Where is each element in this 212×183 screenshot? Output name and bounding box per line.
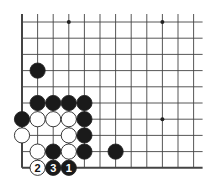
move-number-label: 2 xyxy=(35,162,41,174)
black-stone-icon xyxy=(46,95,61,110)
black-stone-icon xyxy=(61,95,76,110)
black-stone-icon xyxy=(30,95,45,110)
move-number-label: 3 xyxy=(50,162,56,174)
black-stone xyxy=(108,144,123,159)
white-stone-icon xyxy=(61,144,76,159)
black-stone xyxy=(77,128,92,143)
numbered-black-stone: 1 xyxy=(61,160,76,175)
black-stone-icon xyxy=(30,63,45,78)
black-stone xyxy=(77,112,92,127)
move-number-label: 1 xyxy=(66,162,72,174)
white-stone-icon xyxy=(46,112,61,127)
white-stone-icon xyxy=(61,128,76,143)
white-stone-icon xyxy=(14,128,29,143)
black-stone xyxy=(46,95,61,110)
numbered-black-stone: 3 xyxy=(46,160,61,175)
black-stone-icon xyxy=(46,144,61,159)
white-stone xyxy=(61,144,76,159)
white-stone xyxy=(30,112,45,127)
star-point-icon xyxy=(67,20,71,24)
black-stone-icon xyxy=(77,95,92,110)
black-stone xyxy=(77,95,92,110)
white-stone-icon xyxy=(61,112,76,127)
black-stone-icon xyxy=(77,144,92,159)
black-stone xyxy=(46,144,61,159)
white-stone-icon xyxy=(30,112,45,127)
white-stone xyxy=(14,128,29,143)
star-point-icon xyxy=(160,20,164,24)
go-board-diagram: 231 xyxy=(0,0,212,183)
black-stone-icon xyxy=(77,112,92,127)
black-stone-icon xyxy=(108,144,123,159)
white-stone xyxy=(61,128,76,143)
white-stone xyxy=(30,144,45,159)
black-stone xyxy=(61,95,76,110)
star-point-icon xyxy=(160,117,164,121)
black-stone xyxy=(30,95,45,110)
black-stone xyxy=(77,144,92,159)
white-stone xyxy=(61,112,76,127)
white-stone-icon xyxy=(30,144,45,159)
black-stone-icon xyxy=(77,128,92,143)
black-stone xyxy=(14,112,29,127)
black-stone xyxy=(30,63,45,78)
white-stone xyxy=(46,112,61,127)
black-stone-icon xyxy=(14,112,29,127)
numbered-white-stone: 2 xyxy=(30,160,45,175)
